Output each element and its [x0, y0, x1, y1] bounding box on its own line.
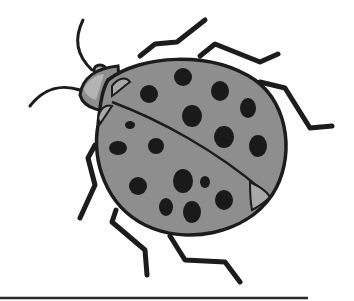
spot: [148, 138, 164, 154]
spot: [174, 68, 192, 86]
spot: [182, 105, 202, 127]
spot: [173, 169, 193, 193]
ladybug-illustration: [0, 0, 354, 301]
spot: [159, 198, 173, 216]
spot: [109, 141, 127, 155]
spot: [129, 177, 147, 195]
spot: [183, 201, 201, 223]
spot: [215, 190, 233, 210]
spot: [140, 85, 158, 103]
spot: [125, 121, 135, 129]
spot: [240, 98, 256, 118]
spot: [249, 135, 267, 157]
spot: [200, 176, 210, 188]
spot: [211, 81, 229, 101]
spot: [214, 126, 234, 148]
